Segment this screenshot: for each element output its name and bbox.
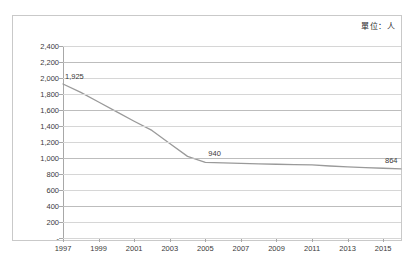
x-tick-mark: [241, 239, 242, 242]
x-tick-label: 1999: [90, 244, 107, 253]
y-tick-label: 2,200: [40, 58, 59, 67]
gridline: [63, 190, 401, 191]
x-tick-mark: [348, 239, 349, 242]
x-tick-mark: [99, 239, 100, 242]
gridline: [63, 174, 401, 175]
x-tick-mark: [312, 239, 313, 242]
x-tick-label: 2007: [233, 244, 250, 253]
chart-figure: 單位：人 2,4002,2002,0001,8001,6001,4001,200…: [0, 0, 415, 256]
x-tick-mark: [134, 239, 135, 242]
y-tick-label: 1,400: [40, 122, 59, 131]
gridline: [63, 142, 401, 143]
gridline: [63, 94, 401, 95]
x-tick-label: 2015: [375, 244, 392, 253]
gridline: [63, 126, 401, 127]
x-tick-mark: [205, 239, 206, 242]
x-tick-mark: [383, 239, 384, 242]
y-tick-label: 600: [46, 186, 59, 195]
plot-area: 1,925940864: [63, 46, 401, 238]
x-tick-mark: [170, 239, 171, 242]
y-tick-label: 2,400: [40, 42, 59, 51]
unit-note-label: 單位：人: [361, 20, 395, 31]
y-tick-label: 1,200: [40, 138, 59, 147]
y-tick-label: 1,000: [40, 154, 59, 163]
x-axis-ticks: 1997199920012003200520072009201120132015: [63, 239, 401, 256]
y-tick-label: 1,800: [40, 90, 59, 99]
gridline: [63, 46, 401, 47]
y-tick-label: 800: [46, 170, 59, 179]
gridline: [63, 206, 401, 207]
x-tick-mark: [276, 239, 277, 242]
y-tick-label: 1,600: [40, 106, 59, 115]
data-point-label: 1,925: [65, 72, 84, 81]
gridline: [63, 222, 401, 223]
x-tick-mark: [63, 239, 64, 242]
y-tick-label: 200: [46, 218, 59, 227]
gridline: [63, 158, 401, 159]
gridline: [63, 110, 401, 111]
gridline: [63, 62, 401, 63]
x-tick-label: 2001: [126, 244, 143, 253]
x-tick-label: 2011: [304, 244, 320, 253]
x-tick-label: 2013: [339, 244, 356, 253]
x-tick-label: 1997: [55, 244, 72, 253]
x-tick-label: 2009: [268, 244, 285, 253]
gridline: [63, 78, 401, 79]
x-tick-label: 2005: [197, 244, 214, 253]
y-tick-label: 400: [46, 202, 59, 211]
chart-frame: 單位：人 2,4002,2002,0001,8001,6001,4001,200…: [12, 15, 402, 241]
data-point-label: 940: [208, 149, 221, 158]
data-point-label: 864: [385, 156, 398, 165]
y-tick-label: 2,000: [40, 74, 59, 83]
x-tick-label: 2003: [161, 244, 178, 253]
y-axis-ticks: 2,4002,2002,0001,8001,6001,4001,2001,000…: [13, 46, 59, 238]
